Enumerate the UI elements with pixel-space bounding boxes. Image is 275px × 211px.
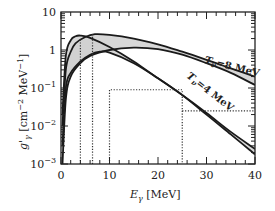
spectrum-chart: 01020304010−310−210−1110 Eγ [MeV] g'γ [c… bbox=[0, 0, 275, 211]
x-tick-label: 30 bbox=[200, 169, 214, 182]
x-tick-label: 0 bbox=[58, 169, 65, 182]
y-tick-label: 10 bbox=[42, 6, 56, 19]
y-tick-label: 10−2 bbox=[30, 118, 56, 133]
y-tick-label: 10−1 bbox=[30, 80, 56, 95]
dotted-line-2 bbox=[110, 90, 183, 164]
x-tick-label: 40 bbox=[248, 169, 262, 182]
band-label-4mev: Tν=4 MeV bbox=[184, 70, 237, 115]
y-axis-title: g'γ [cm−2 MeV−1] bbox=[16, 54, 32, 150]
y-tick-label: 10−3 bbox=[30, 156, 56, 171]
x-tick-label: 20 bbox=[151, 169, 165, 182]
x-axis-title: Eγ [MeV] bbox=[129, 188, 181, 203]
y-tick-label: 1 bbox=[49, 44, 56, 57]
x-tick-label: 10 bbox=[103, 169, 117, 182]
